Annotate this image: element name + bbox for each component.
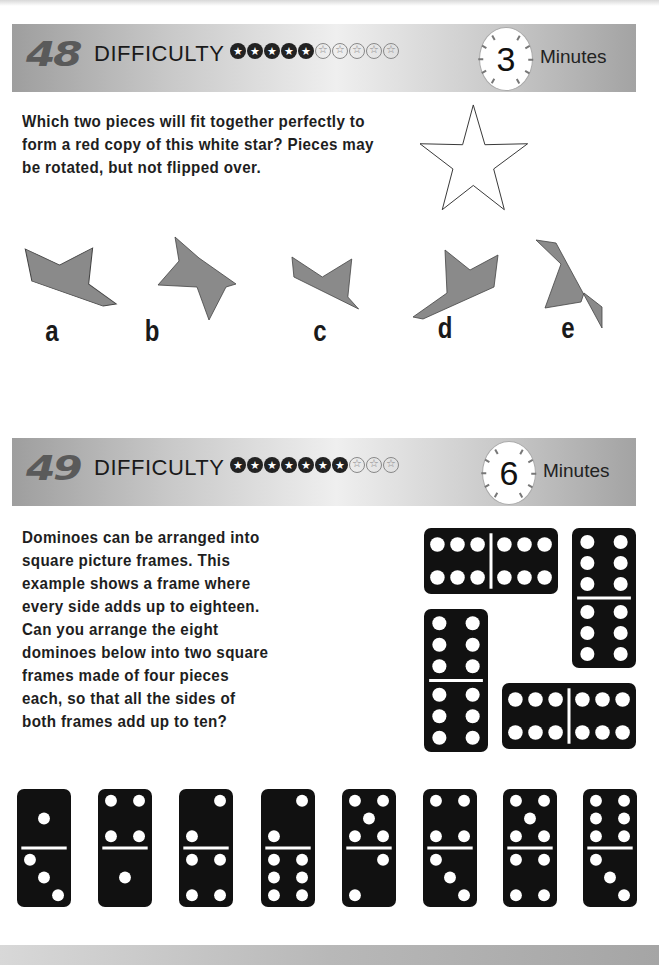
page-top-edge <box>0 0 659 6</box>
star-filled-icon: ★ <box>298 43 314 59</box>
clock-tick <box>481 473 486 475</box>
star-piece-a[interactable] <box>20 245 120 320</box>
domino-piece-1[interactable] <box>17 789 71 907</box>
question-line: be rotated, but not flipped over. <box>22 156 374 179</box>
difficulty-rating: ★★★★★ <box>230 43 399 59</box>
question-line: frames made of four pieces <box>22 664 268 687</box>
domino-piece-4[interactable] <box>261 789 315 907</box>
puzzle-48-header: 48 DIFFICULTY ★★★★★ 3 Minutes <box>12 24 636 92</box>
clock-icon: 3 <box>479 27 533 91</box>
domino-piece-7[interactable] <box>503 789 557 907</box>
clock-tick <box>525 45 530 49</box>
question-line: each, so that all the sides of <box>22 687 268 710</box>
star-piece-c[interactable] <box>290 255 370 315</box>
clock-tick <box>494 493 498 498</box>
star-filled-icon: ★ <box>332 457 348 473</box>
target-star-outline <box>420 103 530 213</box>
question-line: every side adds up to eighteen. <box>22 595 268 618</box>
domino-piece-8[interactable] <box>583 789 637 907</box>
timer-value: 3 <box>497 40 516 79</box>
star-empty-icon <box>383 43 399 59</box>
clock-tick <box>494 449 498 454</box>
clock-tick <box>528 459 533 463</box>
star-filled-icon: ★ <box>315 457 331 473</box>
star-filled-icon: ★ <box>281 457 297 473</box>
puzzle-48-question: Which two pieces will fit together perfe… <box>22 110 374 179</box>
clock-tick <box>478 59 483 61</box>
timer-value: 6 <box>500 454 519 493</box>
piece-label-a: a <box>40 314 64 348</box>
piece-label-b: b <box>140 314 164 348</box>
star-filled-icon: ★ <box>298 457 314 473</box>
clock-icon: 6 <box>482 441 536 505</box>
question-line: square picture frames. This <box>22 549 268 572</box>
difficulty-rating: ★★★★★★★ <box>230 457 399 473</box>
clock-tick <box>491 35 495 40</box>
page-bottom-edge <box>0 945 659 965</box>
clock-tick <box>482 70 487 74</box>
star-empty-icon <box>315 43 331 59</box>
domino-piece-2[interactable] <box>98 789 152 907</box>
star-filled-icon: ★ <box>247 457 263 473</box>
difficulty-label: DIFFICULTY <box>94 41 224 67</box>
star-filled-icon: ★ <box>230 43 246 59</box>
star-piece-b[interactable] <box>155 236 245 321</box>
example-domino-right <box>572 528 636 668</box>
clock-tick <box>491 79 495 84</box>
star-filled-icon: ★ <box>230 457 246 473</box>
puzzle-number: 49 <box>26 448 80 488</box>
example-domino-top <box>424 528 558 594</box>
question-line: Which two pieces will fit together perfe… <box>22 110 374 133</box>
clock-tick <box>519 493 523 498</box>
clock-tick <box>528 484 533 488</box>
question-line: dominoes below into two square <box>22 641 268 664</box>
clock-tick <box>516 79 520 84</box>
clock-tick <box>531 473 536 475</box>
star-filled-icon: ★ <box>281 43 297 59</box>
puzzle-49-header: 49 DIFFICULTY ★★★★★★★ 6 Minutes <box>12 438 636 506</box>
clock-tick <box>485 484 490 488</box>
clock-tick <box>485 459 490 463</box>
puzzle-49-question: Dominoes can be arranged intosquare pict… <box>22 526 268 733</box>
question-line: form a red copy of this white star? Piec… <box>22 133 374 156</box>
clock-tick <box>528 59 533 61</box>
clock-tick <box>519 449 523 454</box>
star-empty-icon <box>332 43 348 59</box>
difficulty-label: DIFFICULTY <box>94 455 224 481</box>
example-domino-left <box>424 609 488 752</box>
star-empty-icon <box>383 457 399 473</box>
domino-piece-5[interactable] <box>342 789 396 907</box>
piece-label-c: c <box>308 314 332 348</box>
timer-unit: Minutes <box>540 46 607 68</box>
clock-tick <box>525 70 530 74</box>
star-empty-icon <box>349 457 365 473</box>
star-filled-icon: ★ <box>247 43 263 59</box>
piece-label-d: d <box>433 311 457 345</box>
piece-label-e: e <box>556 311 580 345</box>
example-domino-bottom <box>502 683 636 749</box>
domino-piece-6[interactable] <box>423 789 477 907</box>
star-filled-icon: ★ <box>264 457 280 473</box>
star-filled-icon: ★ <box>264 43 280 59</box>
question-line: Can you arrange the eight <box>22 618 268 641</box>
clock-tick <box>482 45 487 49</box>
timer-unit: Minutes <box>543 460 610 482</box>
clock-tick <box>516 35 520 40</box>
star-empty-icon <box>366 457 382 473</box>
question-line: example shows a frame where <box>22 572 268 595</box>
star-piece-d[interactable] <box>410 248 510 320</box>
puzzle-number: 48 <box>26 34 80 74</box>
question-line: both frames add up to ten? <box>22 710 268 733</box>
star-empty-icon <box>366 43 382 59</box>
star-empty-icon <box>349 43 365 59</box>
domino-piece-3[interactable] <box>179 789 233 907</box>
question-line: Dominoes can be arranged into <box>22 526 268 549</box>
